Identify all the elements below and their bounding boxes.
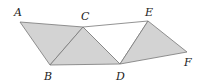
label-e: E — [144, 6, 153, 19]
label-a: A — [13, 6, 22, 19]
label-f: F — [183, 56, 192, 69]
label-d: D — [115, 70, 125, 83]
label-b: B — [43, 70, 52, 83]
label-c: C — [81, 10, 90, 23]
triangle-diagram: A C B E F D — [0, 0, 202, 84]
